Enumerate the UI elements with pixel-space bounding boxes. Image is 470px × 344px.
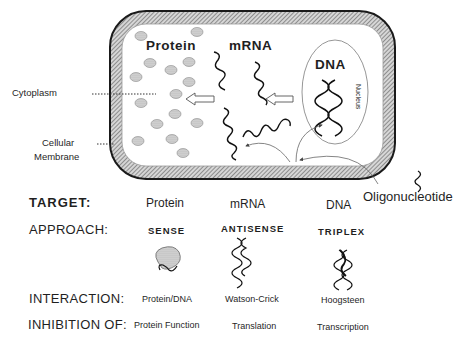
protein-label: Protein	[146, 38, 196, 53]
approach-triplex: TRIPLEX	[318, 226, 365, 237]
approach-antisense: ANTISENSE	[221, 223, 284, 234]
interaction-row-label: INTERACTION:	[29, 291, 124, 306]
sense-protein-blob-icon	[156, 247, 181, 271]
target-dna: DNA	[326, 198, 351, 212]
inhibition-protein-function: Protein Function	[134, 320, 200, 330]
triplex-triple-helix-icon	[334, 250, 352, 290]
nucleus-label: Nucleus	[355, 84, 362, 109]
antisense-double-helix-icon	[232, 238, 251, 288]
target-mrna: mRNA	[230, 197, 265, 211]
inhibition-row-label: INHIBITION OF:	[28, 317, 127, 332]
approach-sense: SENSE	[148, 225, 185, 236]
membrane-label-line1: Cellular	[42, 137, 74, 148]
oligonucleotide-label: Oligonucleotide	[363, 189, 453, 204]
interaction-watson-crick: Watson-Crick	[225, 294, 279, 304]
membrane-label-line2: Membrane	[34, 151, 79, 162]
dna-label: DNA	[315, 57, 346, 72]
interaction-hoogsteen: Hoogsteen	[321, 295, 365, 305]
inhibition-translation: Translation	[232, 321, 276, 331]
approach-row-label: APPROACH:	[29, 222, 108, 237]
target-protein: Protein	[146, 196, 184, 210]
mrna-label: mRNA	[229, 38, 272, 53]
inhibition-transcription: Transcription	[317, 322, 369, 332]
cytoplasm-label: Cytoplasm	[12, 87, 57, 98]
interaction-protein-dna: Protein/DNA	[142, 294, 192, 304]
target-row-label: TARGET:	[29, 195, 91, 210]
